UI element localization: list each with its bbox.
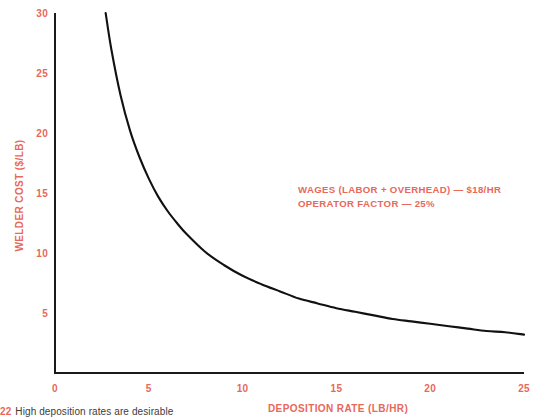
annotation-line-wages: WAGES (LABOR + OVERHEAD) — $18/HR: [298, 183, 501, 197]
welder-cost-chart: WELDER COST ($/LB) DEPOSITION RATE (LB/H…: [0, 0, 543, 420]
annotation-line-operator-factor: OPERATOR FACTOR — 25%: [298, 197, 501, 211]
figure-caption-text: High deposition rates are desirable: [15, 406, 173, 417]
welder-cost-curve: [106, 13, 524, 335]
figure-caption: 22High deposition rates are desirable: [0, 406, 173, 417]
figure-caption-number: 22: [0, 406, 11, 417]
chart-annotation: WAGES (LABOR + OVERHEAD) — $18/HR OPERAT…: [298, 183, 501, 211]
